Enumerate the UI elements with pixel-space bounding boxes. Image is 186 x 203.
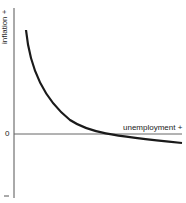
x-axis-label: unemployment + <box>123 124 182 132</box>
chart-plot <box>0 0 186 203</box>
phillips-curve-chart: inflation + unemployment + 0 <box>0 0 186 203</box>
y-tick-zero: 0 <box>5 130 9 138</box>
y-axis-label: inflation + <box>1 10 9 44</box>
